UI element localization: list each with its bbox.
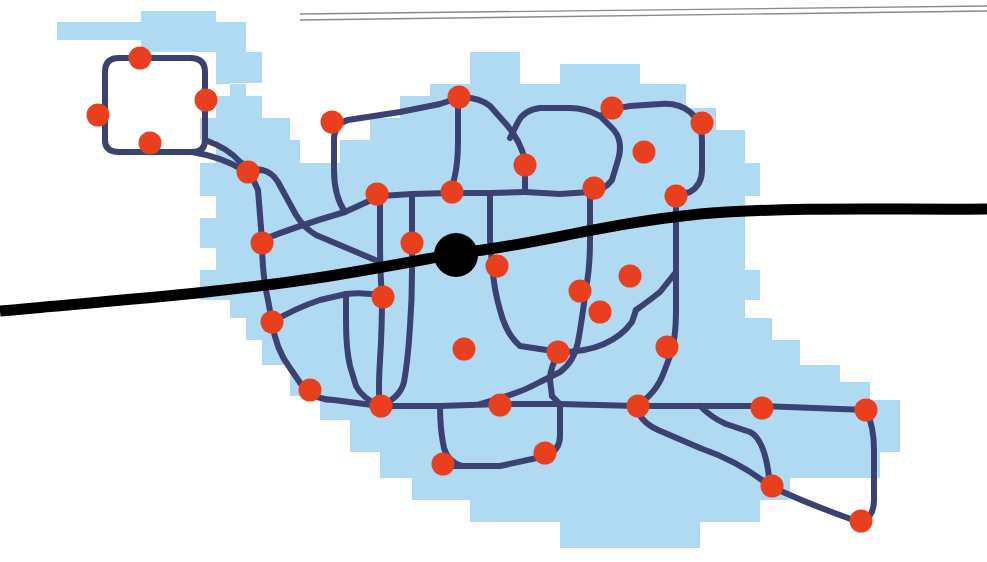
network-link[interactable] <box>770 486 862 523</box>
station-node[interactable] <box>370 395 393 418</box>
station-node[interactable] <box>751 397 774 420</box>
station-node[interactable] <box>237 161 260 184</box>
station-node[interactable] <box>656 336 679 359</box>
station-node[interactable] <box>261 311 284 334</box>
station-node[interactable] <box>251 232 274 255</box>
station-node[interactable] <box>850 510 873 533</box>
top-rule-lines <box>300 6 987 20</box>
station-node[interactable] <box>401 232 424 255</box>
station-node[interactable] <box>761 475 784 498</box>
station-node[interactable] <box>601 97 624 120</box>
station-node[interactable] <box>129 47 152 70</box>
station-node[interactable] <box>514 154 537 177</box>
station-node[interactable] <box>583 177 606 200</box>
central-hub-node[interactable] <box>434 233 478 277</box>
station-node[interactable] <box>691 112 714 135</box>
station-node[interactable] <box>448 86 471 109</box>
figure-root <box>0 0 987 562</box>
station-node[interactable] <box>87 104 110 127</box>
station-node[interactable] <box>321 111 344 134</box>
station-node[interactable] <box>633 141 656 164</box>
network-link[interactable] <box>380 196 382 296</box>
station-node[interactable] <box>547 341 570 364</box>
station-node[interactable] <box>139 132 162 155</box>
station-node[interactable] <box>489 394 512 417</box>
station-node[interactable] <box>619 265 642 288</box>
station-node[interactable] <box>665 185 688 208</box>
network-link[interactable] <box>525 192 590 194</box>
station-node[interactable] <box>589 301 612 324</box>
station-node[interactable] <box>627 395 650 418</box>
station-node[interactable] <box>299 379 322 402</box>
station-node[interactable] <box>855 399 878 422</box>
station-node[interactable] <box>486 255 509 278</box>
station-node[interactable] <box>569 280 592 303</box>
station-node[interactable] <box>453 338 476 361</box>
station-node[interactable] <box>366 183 389 206</box>
station-node[interactable] <box>195 89 218 112</box>
network-link[interactable] <box>379 296 382 406</box>
station-node[interactable] <box>372 286 395 309</box>
station-node[interactable] <box>441 181 464 204</box>
network-map-svg <box>0 0 987 562</box>
station-node[interactable] <box>432 453 455 476</box>
station-node[interactable] <box>534 442 557 465</box>
